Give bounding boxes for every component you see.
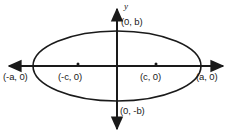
- label-y-axis: y: [124, 2, 128, 11]
- focus-point-left-dot: [77, 63, 80, 66]
- label-covertex-top: (0, b): [121, 17, 143, 27]
- label-focus-right: (c, 0): [140, 72, 161, 82]
- label-focus-left: (-c, 0): [58, 72, 82, 82]
- label-covertex-bottom: (0, -b): [120, 106, 145, 116]
- ellipse-figure-svg: [0, 0, 232, 138]
- label-vertex-right: (a, 0): [196, 72, 218, 82]
- label-vertex-left: (-a, 0): [3, 72, 28, 82]
- focus-point-right-dot: [155, 63, 158, 66]
- ellipse-diagram-canvas: (-a, 0) (-c, 0) (c, 0) (a, 0) (0, b) (0,…: [0, 0, 232, 138]
